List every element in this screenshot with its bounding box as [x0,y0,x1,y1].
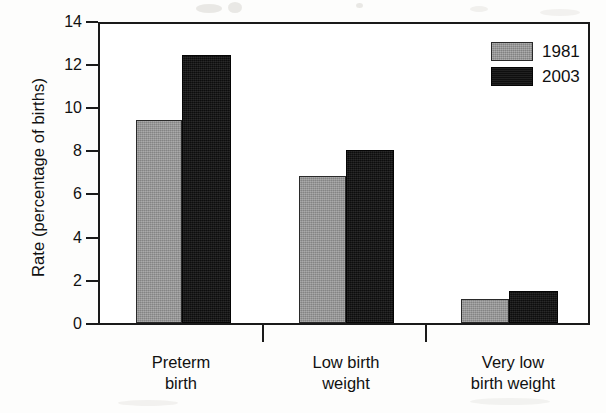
x-axis-label-preterm-birth-line1: Preterm [118,352,244,373]
x-axis-label-very-low-birth-weight-line2: birth weight [441,373,585,394]
y-tick-label-0-wrap: 0 [42,316,82,332]
y-tick-label-12: 12 [48,57,82,73]
y-tick-label-8: 8 [48,143,82,159]
legend-item-2003[interactable]: 2003 [491,65,580,88]
y-tick-label-10: 10 [48,100,82,116]
legend-swatch-1981-icon [491,42,533,61]
y-tick-label-10-wrap: 10 [42,100,82,116]
bar-preterm-birth-2003[interactable] [182,55,231,323]
plot-area: 1981 2003 [98,22,590,325]
y-tick-mark-6 [86,193,98,195]
legend-item-1981[interactable]: 1981 [491,40,580,63]
scan-artifact [356,3,363,8]
x-axis-label-low-birth-weight: Low birth weight [283,352,409,394]
chart-legend: 1981 2003 [491,40,580,90]
y-tick-mark-0 [86,323,98,325]
legend-swatch-2003-icon [491,67,533,86]
legend-label-1981: 1981 [542,43,580,60]
scan-artifact [228,2,242,13]
scan-artifact [470,398,550,405]
x-axis-label-very-low-birth-weight: Very low birth weight [441,352,585,394]
x-axis-label-low-birth-weight-line1: Low birth [283,352,409,373]
y-tick-label-0: 0 [48,316,82,332]
bar-low-birth-weight-1981[interactable] [299,176,346,323]
y-tick-mark-8 [86,150,98,152]
scan-artifact [540,9,580,16]
x-axis-label-preterm-birth: Preterm birth [118,352,244,394]
y-tick-label-8-wrap: 8 [42,143,82,159]
y-tick-label-4: 4 [48,230,82,246]
y-tick-mark-14 [86,21,98,23]
y-tick-mark-10 [86,107,98,109]
bar-low-birth-weight-2003[interactable] [346,150,394,323]
y-tick-label-14-wrap: 14 [42,14,82,30]
scan-artifact [118,400,178,406]
y-tick-label-2: 2 [48,273,82,289]
x-axis-label-low-birth-weight-line2: weight [283,373,409,394]
x-axis-separator-2 [425,325,427,342]
y-tick-label-12-wrap: 12 [42,57,82,73]
bar-very-low-birth-weight-1981[interactable] [461,299,509,323]
y-tick-label-2-wrap: 2 [42,273,82,289]
x-axis-label-preterm-birth-line2: birth [118,373,244,394]
y-tick-mark-12 [86,64,98,66]
scan-artifact [196,4,222,13]
scan-artifact [470,6,488,12]
y-tick-label-14: 14 [48,14,82,30]
bar-preterm-birth-1981[interactable] [136,120,182,323]
x-axis-label-very-low-birth-weight-line1: Very low [441,352,585,373]
bar-very-low-birth-weight-2003[interactable] [509,291,558,323]
y-tick-label-6-wrap: 6 [42,186,82,202]
y-tick-label-4-wrap: 4 [42,230,82,246]
legend-label-2003: 2003 [542,68,580,85]
chart-figure: Rate (percentage of births) 14 12 10 8 6… [0,0,606,413]
y-tick-mark-2 [86,280,98,282]
x-axis-separator-1 [262,325,264,342]
y-tick-mark-4 [86,237,98,239]
y-tick-label-6: 6 [48,186,82,202]
